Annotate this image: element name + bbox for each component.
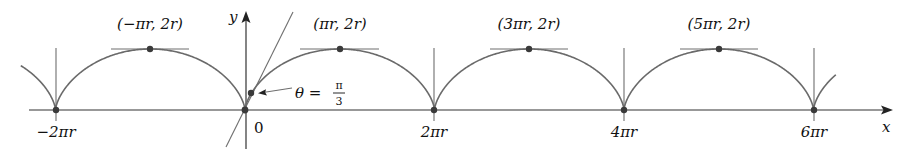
origin-label: 0: [254, 119, 264, 137]
cusp-label: 6πr: [801, 123, 828, 141]
y-axis-label: y: [228, 8, 238, 26]
peak-label: (5πr, 2r): [688, 15, 751, 33]
cusp-point: [621, 107, 627, 113]
peak-point: [147, 46, 153, 52]
cycloid-curve: [21, 49, 836, 110]
fraction-denominator: 3: [336, 95, 343, 108]
peak-label: (−πr, 2r): [117, 15, 183, 33]
fraction-numerator: π: [335, 79, 342, 92]
cusp-label: −2πr: [36, 123, 76, 141]
theta-point: [248, 90, 254, 96]
cusp-label: 2πr: [420, 123, 448, 141]
cusp-point: [431, 107, 437, 113]
peak-point: [526, 46, 532, 52]
peak-point: [716, 46, 722, 52]
x-axis-label: x: [882, 118, 891, 136]
cusp-point: [53, 107, 59, 113]
cusp-point: [811, 107, 817, 113]
annotation-arrow-line: [263, 88, 292, 93]
peak-point: [337, 46, 343, 52]
theta-label: θ =: [295, 84, 321, 102]
cusp-label: 4πr: [610, 123, 638, 141]
cusp-point: [242, 107, 249, 114]
peak-label: (3πr, 2r): [498, 15, 561, 33]
peak-label: (πr, 2r): [313, 15, 366, 33]
cycloid-diagram: x y (−πr, 2r) (πr, 2r): [0, 0, 917, 152]
